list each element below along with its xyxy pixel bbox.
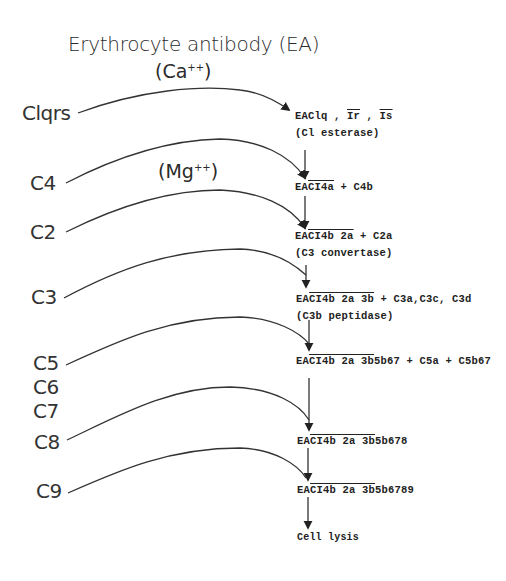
note-c3b-peptidase: (C3b peptidase)	[296, 310, 394, 322]
component-c6: C6	[33, 375, 59, 399]
calcium-cofactor: (Ca++)	[155, 60, 212, 82]
arrow-c9	[68, 448, 306, 493]
magnesium-cofactor: (Mg++)	[158, 160, 218, 182]
product-c5b6789: EACI4b 2a 3b5b6789	[297, 484, 414, 496]
product-c3-convertase: EACI4b 2a + C2a	[295, 230, 393, 242]
arrow-c1qrs	[78, 88, 289, 113]
product-c5b67: EACI4b 2a 3b5b67 + C5a + C5b67	[296, 355, 491, 367]
component-c7: C7	[33, 399, 59, 423]
arrow-c8	[67, 387, 309, 440]
pathway-arrows	[0, 0, 506, 581]
component-c3: C3	[31, 285, 57, 309]
final-cell-lysis: Cell lysis	[297, 532, 359, 543]
note-c1-esterase: (Cl esterase)	[295, 127, 380, 139]
note-c3-convertase: (C3 convertase)	[295, 247, 393, 259]
component-c1qrs: Clqrs	[22, 101, 70, 125]
arrow-c5	[66, 317, 310, 365]
component-c9: C9	[36, 479, 62, 503]
arrow-c3	[64, 249, 306, 298]
diagram-title: Erythrocyte antibody (EA)	[68, 32, 319, 56]
component-c5: C5	[33, 351, 59, 375]
product-c5b678: EACI4b 2a 3b5b678	[297, 435, 408, 447]
arrow-c2	[66, 190, 305, 232]
component-c4: C4	[30, 171, 56, 195]
product-c1-esterase: EAClq , Ir , Is	[295, 110, 393, 122]
product-c3b-peptidase: EACI4b 2a 3b + C3a,C3c, C3d	[296, 293, 472, 305]
component-c2: C2	[30, 220, 56, 244]
product-c14a: EACI4a + C4b	[295, 181, 373, 193]
component-c8: C8	[34, 430, 60, 454]
